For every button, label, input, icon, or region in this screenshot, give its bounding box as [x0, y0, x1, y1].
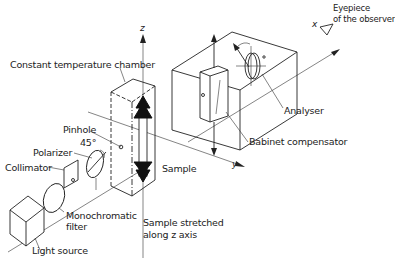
analyser-housing-box	[172, 32, 297, 150]
babinet-compensator	[200, 66, 228, 122]
label-monochromatic-filter-1: Monochromatic	[66, 211, 137, 221]
label-babinet-compensator: Babinet compensator	[249, 137, 347, 147]
label-polarizer: Polarizer	[33, 148, 72, 158]
label-eyepiece-1: Eyepiece	[333, 4, 370, 13]
collimator-aperture	[72, 179, 75, 182]
collimator-plate	[64, 160, 78, 188]
x-axis-arrowhead	[331, 49, 340, 56]
label-axis-y: y	[232, 160, 237, 169]
z-axis-arrowhead	[140, 34, 146, 43]
sample-stretch-arrow	[134, 96, 152, 182]
label-eyepiece-2: of the observer	[333, 15, 395, 24]
light-source-box	[10, 196, 44, 246]
label-sample-stretched-1: Sample stretched	[143, 218, 224, 228]
label-light-source: Light source	[32, 246, 88, 256]
constant-temperature-chamber	[111, 79, 155, 196]
label-sample: Sample	[162, 164, 196, 174]
label-axis-z: z	[140, 24, 145, 33]
label-pinhole: Pinhole	[63, 125, 96, 135]
label-monochromatic-filter-2: filter	[66, 222, 87, 232]
label-axis-x: x	[312, 20, 317, 29]
label-collimator: Collimator	[5, 163, 52, 173]
label-analyser: Analyser	[284, 106, 324, 116]
label-angle-45: 45°	[80, 138, 96, 148]
eyepiece-icon	[320, 24, 333, 35]
label-constant-temperature-chamber: Constant temperature chamber	[10, 60, 155, 70]
label-sample-stretched-2: along z axis	[143, 230, 197, 240]
